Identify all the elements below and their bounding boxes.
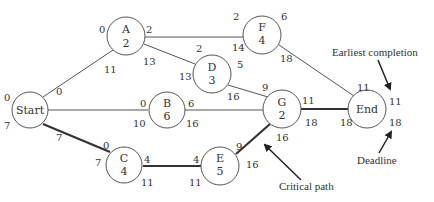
node-a-name: A: [121, 23, 131, 36]
node-a-top-right: 2: [146, 24, 152, 35]
node-d-name: D: [208, 61, 217, 74]
node-d-duration: 3: [209, 74, 216, 87]
node-g-top-left: 9: [262, 82, 268, 93]
node-g-bottom-left: 16: [276, 132, 289, 143]
earliest-completion-arrow-icon: [378, 60, 390, 89]
node-end-bottom-left: 18: [340, 117, 353, 128]
node-c-top-right: 4: [144, 154, 150, 165]
node-end: End 11 11 18 18: [340, 82, 402, 128]
node-c-bottom-right: 11: [141, 177, 154, 188]
earliest-completion-label: Earliest completion: [332, 46, 418, 58]
node-f-bottom-left: 14: [232, 42, 245, 53]
node-start-bottom-left: 7: [4, 120, 10, 131]
node-c-bottom-left: 7: [95, 157, 101, 168]
node-a-duration: 2: [123, 37, 130, 50]
node-g: G 2 9 11 16 18: [262, 82, 318, 143]
node-d-top-right: 5: [237, 59, 243, 70]
node-e-top-right: 9: [236, 141, 242, 152]
node-e: E 5 4 9 11 16: [189, 141, 259, 188]
node-end-name: End: [356, 103, 378, 116]
node-a-bottom-left: 11: [104, 64, 117, 75]
node-d-top-left: 2: [196, 43, 202, 54]
node-b-name: B: [163, 97, 171, 110]
edge-start-c-critical: [43, 124, 110, 152]
node-a-bottom-right: 13: [143, 56, 156, 67]
node-d-bottom-right: 16: [227, 91, 240, 102]
node-b-top-left: 0: [140, 98, 146, 109]
node-g-name: G: [278, 96, 287, 109]
node-start-top-right: 0: [56, 86, 62, 97]
node-end-top-right: 11: [389, 96, 402, 107]
edge-start-a: [43, 50, 113, 97]
node-e-bottom-left: 11: [189, 177, 202, 188]
node-b-top-right: 6: [188, 98, 194, 109]
node-e-bottom-right: 16: [246, 159, 259, 170]
node-b-bottom-left: 10: [133, 118, 146, 129]
node-g-duration: 2: [279, 109, 286, 122]
node-b-bottom-right: 16: [186, 118, 199, 129]
node-e-duration: 5: [217, 165, 224, 178]
node-end-top-left: 11: [357, 82, 370, 93]
node-a: A 2 0 2 11 13: [99, 17, 156, 75]
node-g-top-right: 11: [302, 95, 315, 106]
activity-network-diagram: Start 0 7 0 7 A 2 0 2 11 13 F 4 2 6 14 1…: [0, 0, 434, 202]
deadline-label: Deadline: [357, 154, 397, 166]
node-d-bottom-left: 13: [179, 71, 192, 82]
node-b-duration: 6: [164, 110, 171, 123]
node-end-bottom-right: 18: [389, 117, 402, 128]
node-start: Start 0 7 0 7: [4, 86, 62, 143]
node-f-bottom-right: 18: [280, 53, 293, 64]
node-f-top-right: 6: [281, 11, 287, 22]
node-g-bottom-right: 18: [305, 117, 318, 128]
node-start-top-left: 0: [4, 92, 10, 103]
node-a-top-left: 0: [99, 24, 105, 35]
node-c-name: C: [120, 152, 128, 165]
node-c-duration: 4: [121, 165, 128, 178]
node-f-top-left: 2: [233, 11, 239, 22]
deadline-arrow-icon: [379, 132, 391, 153]
node-start-bottom-right: 7: [56, 132, 62, 143]
node-start-name: Start: [16, 104, 45, 117]
critical-path-label: Critical path: [279, 180, 334, 192]
node-f-name: F: [258, 21, 266, 34]
node-c: C 4 0 4 7 11: [95, 140, 154, 188]
node-e-name: E: [216, 152, 224, 165]
node-f-duration: 4: [259, 34, 266, 47]
node-c-top-left: 0: [103, 140, 109, 151]
critical-path-arrow-icon: [265, 145, 301, 180]
node-e-top-left: 4: [193, 154, 199, 165]
